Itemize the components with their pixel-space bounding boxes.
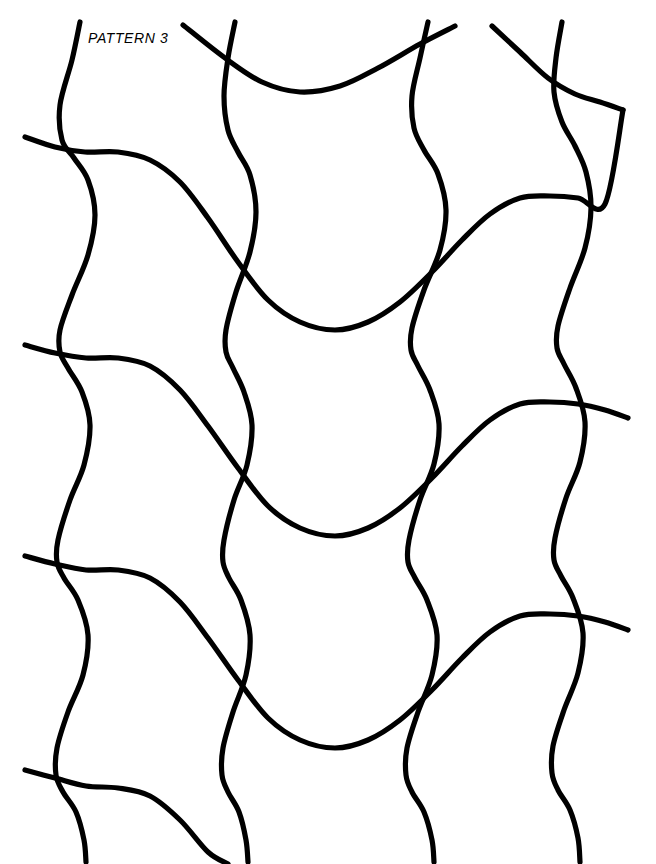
pattern-page: PATTERN 3: [0, 0, 656, 864]
pattern-title-label: PATTERN 3: [88, 30, 168, 46]
wavy-lattice-artwork: [0, 0, 656, 864]
